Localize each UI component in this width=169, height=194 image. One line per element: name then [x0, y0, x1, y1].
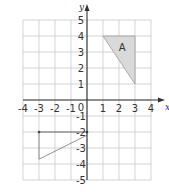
x-tick-label: -3: [34, 103, 44, 114]
shape-a-label: A: [119, 42, 126, 53]
coordinate-grid: Axy-4-3-2-11234012345-1-2-3-4-5: [0, 0, 169, 194]
y-tick-label: -3: [76, 143, 86, 154]
x-tick-label: 3: [132, 103, 138, 114]
y-tick-label: 1: [78, 79, 84, 90]
y-axis-arrow-icon: [85, 4, 90, 11]
y-tick-label: 4: [78, 31, 84, 42]
coordinate-diagram: Axy-4-3-2-11234012345-1-2-3-4-5: [0, 0, 169, 194]
y-tick-label: -4: [76, 159, 86, 170]
x-axis-label: x: [165, 102, 169, 112]
x-axis-arrow-icon: [158, 98, 165, 103]
y-axis-label: y: [78, 2, 85, 12]
x-tick-label: 2: [116, 103, 122, 114]
x-tick-label: -1: [66, 103, 76, 114]
y-tick-label: 5: [78, 15, 84, 26]
y-tick-label: -2: [76, 127, 86, 138]
x-tick-label: -2: [50, 103, 60, 114]
y-tick-label: 2: [78, 63, 84, 74]
y-tick-label: -1: [76, 111, 86, 122]
x-tick-label: -4: [18, 103, 28, 114]
x-tick-label: 4: [148, 103, 154, 114]
x-tick-label: 1: [100, 103, 106, 114]
y-tick-label: -5: [76, 175, 86, 186]
vertex-point: [38, 131, 41, 134]
y-tick-label: 3: [78, 47, 84, 58]
